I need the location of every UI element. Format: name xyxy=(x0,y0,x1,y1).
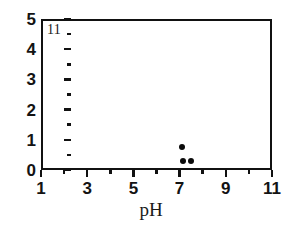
x-tick-major xyxy=(271,170,274,177)
x-tick-major xyxy=(132,170,135,177)
x-tick-minor xyxy=(109,170,112,174)
y-tick-major xyxy=(64,18,71,21)
y-tick-label: 1 xyxy=(12,132,36,149)
y-tick-major xyxy=(64,139,71,142)
y-tick-minor xyxy=(67,154,71,157)
x-tick-minor xyxy=(155,170,158,174)
x-tick-minor xyxy=(201,170,204,174)
y-tick-label: 5 xyxy=(12,11,36,28)
y-tick-major xyxy=(64,78,71,81)
y-tick-label: 2 xyxy=(12,102,36,119)
chart-figure: 11 012345 1357911 pH xyxy=(0,0,290,225)
y-tick-minor xyxy=(67,123,71,126)
y-tick-minor xyxy=(67,93,71,96)
y-tick-major xyxy=(64,48,71,51)
x-tick-label: 9 xyxy=(206,180,246,197)
x-tick-label: 5 xyxy=(113,180,153,197)
y-tick-label: 4 xyxy=(12,41,36,58)
y-tick-minor xyxy=(67,63,71,66)
x-tick-label: 1 xyxy=(21,180,61,197)
x-tick-minor xyxy=(63,170,66,174)
x-tick-major xyxy=(86,170,89,177)
y-tick-label: 0 xyxy=(12,162,36,179)
x-tick-minor xyxy=(248,170,251,174)
x-tick-major xyxy=(40,170,43,177)
x-tick-label: 11 xyxy=(252,180,290,197)
x-tick-major xyxy=(178,170,181,177)
y-tick-label: 3 xyxy=(12,71,36,88)
y-tick-major xyxy=(64,108,71,111)
x-tick-label: 3 xyxy=(67,180,107,197)
x-axis-title: pH xyxy=(0,200,290,219)
x-tick-label: 7 xyxy=(160,180,200,197)
x-tick-major xyxy=(225,170,228,177)
y-tick-minor xyxy=(67,33,71,36)
